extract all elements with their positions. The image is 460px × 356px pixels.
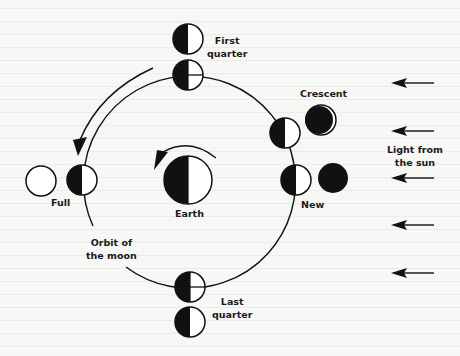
moon-on-orbit-last-quarter-icon <box>175 272 205 302</box>
moon-on-orbit-crescent-icon <box>270 118 300 148</box>
sunlight-arrow-icon <box>391 220 434 230</box>
moon-view-crescent-icon <box>305 105 336 135</box>
label-orbit-line2: the moon <box>86 249 137 262</box>
moon-view-new-icon <box>318 163 348 193</box>
moon-on-orbit-first-quarter-icon <box>173 60 203 90</box>
label-orbit-of-the-moon: Orbit of the moon <box>86 236 137 262</box>
sunlight-arrow-icon <box>391 173 434 183</box>
label-light-from-the-sun: Light from the sun <box>387 143 443 169</box>
sunlight-arrow-icon <box>391 78 434 88</box>
label-earth: Earth <box>175 207 204 220</box>
label-sunlight-line1: Light from <box>387 143 443 156</box>
sunlight-arrow-icon <box>391 126 434 136</box>
moon-on-orbit-full-icon <box>67 165 97 195</box>
moon-on-orbit-new-icon <box>281 165 311 195</box>
label-sunlight-line2: the sun <box>387 156 443 169</box>
label-new: New <box>301 198 324 211</box>
orbit-direction-arrow-icon <box>73 68 153 156</box>
earth-icon <box>164 156 212 204</box>
label-full: Full <box>51 196 70 209</box>
label-first-quarter: First quarter <box>207 34 247 60</box>
moon-view-full-icon <box>26 166 56 196</box>
sunlight-arrows <box>391 78 434 278</box>
label-first-quarter-line2: quarter <box>207 47 247 60</box>
label-last-quarter-line2: quarter <box>212 308 252 321</box>
label-first-quarter-line1: First <box>207 34 247 47</box>
label-crescent: Crescent <box>300 87 347 100</box>
moon-view-last-quarter-icon <box>175 307 205 337</box>
sunlight-arrow-icon <box>391 268 434 278</box>
moon-view-first-quarter-icon <box>173 24 203 54</box>
label-last-quarter: Last quarter <box>212 295 252 321</box>
label-last-quarter-line1: Last <box>212 295 252 308</box>
label-orbit-line1: Orbit of <box>86 236 137 249</box>
